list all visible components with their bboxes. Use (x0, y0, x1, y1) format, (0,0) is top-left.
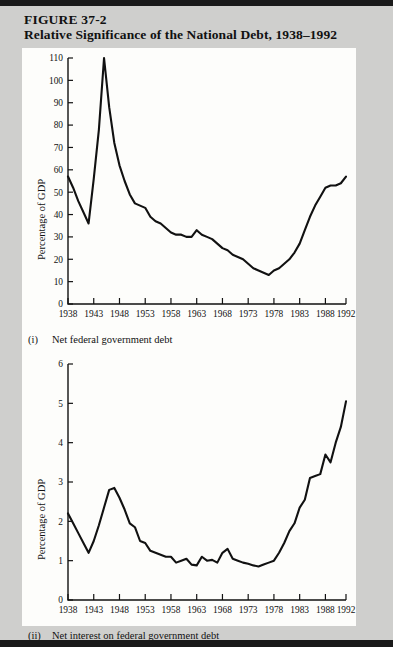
chart1-caption-numeral: (i) (28, 334, 52, 345)
svg-text:20: 20 (54, 255, 64, 265)
chart2-plot: 0123456193819431948195319581963196819731… (22, 354, 356, 626)
svg-text:2: 2 (58, 517, 63, 527)
svg-text:40: 40 (54, 210, 64, 220)
svg-text:1978: 1978 (265, 309, 284, 319)
chart1-y-axis-label: Percentage of GDP (36, 179, 47, 260)
svg-text:50: 50 (54, 188, 64, 198)
svg-text:1958: 1958 (162, 605, 181, 615)
chart-net-interest: Percentage of GDP 0123456193819431948195… (22, 354, 356, 626)
svg-text:1983: 1983 (290, 309, 309, 319)
svg-text:6: 6 (58, 359, 63, 369)
svg-text:1943: 1943 (84, 605, 103, 615)
svg-text:1948: 1948 (110, 605, 129, 615)
svg-text:1973: 1973 (239, 309, 258, 319)
svg-text:1948: 1948 (110, 309, 129, 319)
svg-text:1953: 1953 (136, 309, 155, 319)
svg-text:10: 10 (54, 277, 64, 287)
svg-text:3: 3 (58, 477, 63, 487)
svg-text:70: 70 (54, 143, 64, 153)
svg-text:80: 80 (54, 120, 64, 130)
svg-text:1968: 1968 (213, 309, 232, 319)
chart1-caption-text: Net federal government debt (52, 334, 172, 345)
svg-text:1958: 1958 (162, 309, 181, 319)
figure-number: FIGURE 37-2 (24, 12, 374, 27)
svg-text:5: 5 (58, 399, 63, 409)
svg-text:1938: 1938 (59, 605, 78, 615)
figure-panel: Percentage of GDP 0102030405060708090100… (22, 48, 356, 626)
svg-text:1943: 1943 (84, 309, 103, 319)
figure-title: Relative Significance of the National De… (24, 27, 374, 43)
svg-text:100: 100 (49, 76, 63, 86)
svg-text:1988: 1988 (316, 309, 335, 319)
svg-text:1992: 1992 (337, 309, 356, 319)
figure-header: FIGURE 37-2 Relative Significance of the… (24, 12, 374, 43)
chart-net-federal-debt: Percentage of GDP 0102030405060708090100… (22, 48, 356, 330)
svg-text:90: 90 (54, 98, 64, 108)
top-rule (0, 0, 393, 6)
svg-text:1973: 1973 (239, 605, 258, 615)
bottom-rule (0, 640, 393, 647)
svg-text:60: 60 (54, 165, 64, 175)
svg-text:1983: 1983 (290, 605, 309, 615)
chart2-y-axis-label: Percentage of GDP (36, 479, 47, 560)
svg-text:0: 0 (58, 299, 63, 309)
svg-text:1992: 1992 (337, 605, 356, 615)
svg-text:30: 30 (54, 232, 64, 242)
svg-text:4: 4 (58, 438, 63, 448)
svg-text:0: 0 (58, 595, 63, 605)
svg-text:1963: 1963 (187, 605, 206, 615)
svg-text:1963: 1963 (187, 309, 206, 319)
svg-text:1953: 1953 (136, 605, 155, 615)
chart1-plot: 0102030405060708090100110193819431948195… (22, 48, 356, 330)
svg-text:110: 110 (49, 53, 63, 63)
svg-text:1988: 1988 (316, 605, 335, 615)
svg-text:1978: 1978 (265, 605, 284, 615)
chart1-caption: (i)Net federal government debt (28, 334, 172, 345)
svg-text:1968: 1968 (213, 605, 232, 615)
svg-text:1938: 1938 (59, 309, 78, 319)
svg-text:1: 1 (58, 556, 63, 566)
